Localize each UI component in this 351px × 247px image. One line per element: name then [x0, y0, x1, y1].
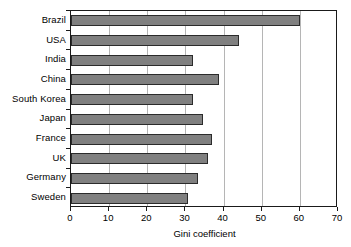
plot-area — [70, 10, 337, 207]
y-axis-label: UK — [0, 153, 66, 163]
x-axis-tick-label: 50 — [255, 212, 266, 223]
x-axis-tick — [146, 207, 147, 211]
x-axis-tick — [299, 207, 300, 211]
gini-coefficient-bar-chart: BrazilUSAIndiaChinaSouth KoreaJapanFranc… — [0, 0, 351, 247]
y-axis-label: Japan — [0, 113, 66, 123]
x-axis-tick — [70, 207, 71, 211]
bars-layer — [71, 11, 336, 206]
y-axis-label: France — [0, 133, 66, 143]
x-axis-title: Gini coefficient — [0, 228, 351, 240]
y-axis-label: Brazil — [0, 15, 66, 25]
bar-row — [71, 11, 300, 31]
x-axis-tick-label: 30 — [179, 212, 190, 223]
y-axis-label: India — [0, 54, 66, 64]
y-axis-label: China — [0, 74, 66, 84]
bar-row — [71, 129, 212, 149]
bar-row — [71, 110, 203, 130]
y-axis-label: Sweden — [0, 192, 66, 202]
bar-row — [71, 169, 198, 189]
bar — [71, 193, 188, 204]
bar — [71, 74, 219, 85]
bar — [71, 94, 193, 105]
x-axis-tick — [261, 207, 262, 211]
bar — [71, 15, 300, 26]
bar — [71, 55, 193, 66]
x-axis-tick — [108, 207, 109, 211]
bar-row — [71, 149, 208, 169]
bar-row — [71, 31, 239, 51]
bar-row — [71, 50, 193, 70]
bar-row — [71, 70, 219, 90]
bar-row — [71, 90, 193, 110]
x-axis-tick-label: 70 — [332, 212, 343, 223]
x-axis-tick-label: 40 — [217, 212, 228, 223]
bar — [71, 35, 239, 46]
bar — [71, 114, 203, 125]
y-axis-label: USA — [0, 35, 66, 45]
x-axis-tick-label: 60 — [294, 212, 305, 223]
bar — [71, 173, 198, 184]
x-axis-tick — [223, 207, 224, 211]
x-axis-title-text: Gini coefficient — [115, 228, 235, 240]
bar-row — [71, 188, 188, 208]
y-axis-label: Germany — [0, 172, 66, 182]
bar — [71, 153, 208, 164]
x-axis-tick — [184, 207, 185, 211]
y-axis-label: South Korea — [0, 94, 66, 104]
x-axis-tick-labels: 010203040506070 — [0, 212, 351, 226]
y-axis-category-labels: BrazilUSAIndiaChinaSouth KoreaJapanFranc… — [0, 10, 66, 207]
x-axis-tick-label: 20 — [141, 212, 152, 223]
bar — [71, 134, 212, 145]
x-axis-tick-label: 0 — [67, 212, 72, 223]
x-axis-tick-label: 10 — [103, 212, 114, 223]
x-axis-tick — [337, 207, 338, 211]
